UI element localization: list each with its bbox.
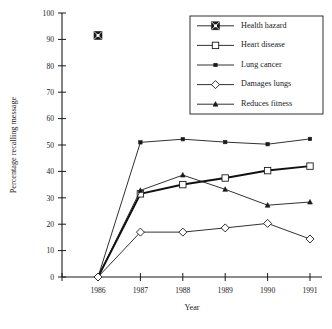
x-tick-label: 1988 [175, 286, 190, 295]
y-tick-label: 0 [50, 273, 54, 282]
line-chart: 0102030405060708090100198619871988198919… [0, 0, 332, 329]
marker-filled-square [181, 137, 184, 140]
y-tick-label: 40 [46, 167, 54, 176]
y-tick-label: 70 [46, 88, 54, 97]
series-path [98, 139, 310, 277]
legend: Health hazardHeart diseaseLung cancerDam… [190, 16, 323, 114]
series-heart-disease [98, 163, 313, 277]
marker-filled-square [224, 140, 227, 143]
y-tick-label: 50 [46, 141, 54, 150]
y-tick-label: 20 [46, 220, 54, 229]
marker-filled-square [214, 63, 217, 66]
x-tick-label: 1991 [302, 286, 317, 295]
legend-item-label: Heart disease [241, 40, 285, 49]
marker-filled-square [266, 143, 269, 146]
marker-open-diamond [221, 224, 229, 232]
series-health-hazard [94, 31, 102, 39]
marker-open-square [212, 42, 218, 48]
series-damages-lungs [98, 219, 314, 277]
y-tick-label: 80 [46, 62, 54, 71]
series-path [98, 166, 310, 277]
x-tick-label: 1986 [90, 286, 105, 295]
legend-item-label: Damages lungs [241, 79, 291, 88]
x-tick-label: 1989 [218, 286, 233, 295]
marker-open-square [180, 181, 186, 187]
chart-canvas: 0102030405060708090100198619871988198919… [0, 0, 332, 329]
y-tick-label: 90 [46, 35, 54, 44]
marker-open-diamond [179, 228, 187, 236]
y-tick-label: 100 [43, 9, 55, 18]
marker-filled-triangle [180, 172, 185, 177]
x-tick-label: 1990 [260, 286, 275, 295]
legend-item-label: Health hazard [241, 21, 287, 30]
series-path [98, 223, 310, 277]
marker-open-diamond [264, 219, 272, 227]
legend-item-label: Lung cancer [241, 60, 282, 69]
x-axis-title: Year [184, 303, 199, 312]
y-tick-label: 10 [46, 246, 54, 255]
marker-filled-square [308, 137, 311, 140]
series-path [98, 175, 310, 277]
legend-item-label: Reduces fitness [241, 99, 292, 108]
series-lung-cancer [98, 137, 312, 277]
marker-open-square [264, 167, 270, 173]
x-tick-label: 1987 [133, 286, 148, 295]
series-reduces-fitness [98, 172, 312, 277]
marker-open-diamond [306, 235, 314, 243]
y-tick-label: 30 [46, 194, 54, 203]
marker-open-square [307, 163, 313, 169]
y-axis-title: Percentage recalling message [9, 96, 18, 193]
marker-open-square [222, 175, 228, 181]
marker-filled-square [139, 141, 142, 144]
y-tick-label: 60 [46, 114, 54, 123]
